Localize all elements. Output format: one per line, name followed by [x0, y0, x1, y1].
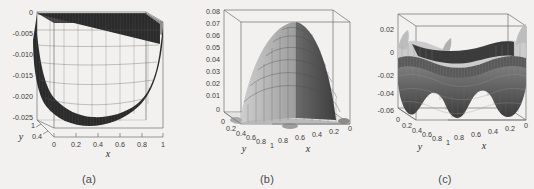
- z-tick: 0.02: [380, 25, 394, 34]
- z-tick: 0.04: [206, 55, 220, 64]
- z-tick: 0: [29, 8, 33, 17]
- z-tick: 0.05: [206, 43, 220, 52]
- y-tick: 0: [396, 115, 400, 124]
- surface-mesh-a: [33, 13, 163, 126]
- y-tick: 0.2: [402, 121, 412, 130]
- panel-b: 0.08 0.07 0.06 0.05 0.04 0.03 0.02 0.01 …: [178, 0, 356, 189]
- y-tick: 0.4: [412, 126, 422, 135]
- x-tick: 0: [524, 121, 528, 130]
- x-axis-label-b: x: [305, 143, 311, 154]
- z-tick: -0.02: [378, 71, 394, 80]
- z-tick: 0.03: [206, 67, 220, 76]
- y-tick: 1: [446, 138, 450, 147]
- y-tick: 1: [31, 121, 35, 130]
- y-tick: 0: [221, 117, 225, 126]
- z-axis-ticks-a: 0 -0.005 -0.010 -0.015 -0.020 -0.025: [13, 8, 33, 122]
- panel-a: 0 -0.005 -0.010 -0.015 -0.020 -0.025 0 0…: [0, 0, 178, 189]
- figure-panel-row: 0 -0.005 -0.010 -0.015 -0.020 -0.025 0 0…: [0, 0, 534, 189]
- z-tick: -0.005: [13, 29, 33, 38]
- y-tick: 0.2: [226, 124, 236, 133]
- z-tick: 0.01: [206, 91, 220, 100]
- x-tick: 0: [348, 124, 352, 133]
- x-axis-a: [54, 133, 163, 137]
- y-tick: 1: [270, 141, 274, 150]
- y-axis-label-c: y: [417, 141, 423, 152]
- x-tick: 0.2: [329, 127, 339, 136]
- surface-mesh-b: [224, 22, 350, 129]
- x-tick: 0.4: [488, 127, 498, 136]
- panel-caption-a: (a): [0, 173, 178, 185]
- x-tick: 0.6: [295, 133, 305, 142]
- x-tick: 0.4: [312, 130, 322, 139]
- y-tick: 0.6: [246, 133, 256, 142]
- z-tick: 0: [390, 48, 394, 57]
- z-tick: -0.015: [13, 71, 33, 80]
- surface-plot-b: 0.08 0.07 0.06 0.05 0.04 0.03 0.02 0.01 …: [178, 0, 356, 165]
- z-tick: 0.07: [206, 19, 220, 28]
- y-tick: 0.4: [236, 129, 246, 138]
- x-axis-label-c: x: [481, 140, 487, 151]
- z-tick: -0.020: [13, 92, 33, 101]
- x-tick: 1: [161, 140, 165, 149]
- x-axis-ticks-c: 0.8 0.6 0.4 0.2 0: [454, 121, 528, 142]
- x-tick: 0.6: [115, 140, 125, 149]
- y-tick: 0.4: [32, 132, 42, 141]
- x-tick: 0.8: [454, 133, 464, 142]
- surface-plot-c: 0.02 0 -0.02 -0.04 -0.06 0 0.2 0.4 0.6 0…: [356, 0, 534, 165]
- x-axis-label-a: x: [105, 148, 111, 159]
- surface-plot-a: 0 -0.005 -0.010 -0.015 -0.020 -0.025 0 0…: [0, 0, 178, 165]
- panel-c: 0.02 0 -0.02 -0.04 -0.06 0 0.2 0.4 0.6 0…: [356, 0, 534, 189]
- x-tick: 0.4: [93, 140, 103, 149]
- z-axis-ticks-c: 0.02 0 -0.02 -0.04 -0.06: [378, 25, 394, 115]
- z-tick: 0.06: [206, 31, 220, 40]
- y-tick: 0.6: [422, 130, 432, 139]
- y-axis-label-b: y: [241, 143, 247, 154]
- x-tick: 0: [52, 140, 56, 149]
- z-tick: -0.010: [13, 50, 33, 59]
- x-tick: 0.2: [505, 124, 515, 133]
- z-tick: 0.02: [206, 79, 220, 88]
- z-tick: -0.025: [13, 113, 33, 122]
- panel-caption-c: (c): [356, 173, 534, 185]
- z-tick: -0.04: [378, 89, 394, 98]
- x-tick: 0.6: [471, 130, 481, 139]
- y-tick: 0.8: [256, 137, 266, 146]
- y-tick: 0.8: [432, 134, 442, 143]
- surface-mesh-c: [398, 24, 526, 119]
- x-tick: 0.8: [278, 136, 288, 145]
- z-axis-ticks-b: 0.08 0.07 0.06 0.05 0.04 0.03 0.02 0.01 …: [206, 7, 220, 114]
- z-tick: 0.08: [206, 7, 220, 16]
- y-axis-label-a: y: [18, 131, 24, 142]
- x-tick: 0.2: [71, 140, 81, 149]
- z-tick: 0: [216, 105, 220, 114]
- x-tick: 0.8: [137, 140, 147, 149]
- z-tick: -0.06: [378, 106, 394, 115]
- panel-caption-b: (b): [178, 173, 356, 185]
